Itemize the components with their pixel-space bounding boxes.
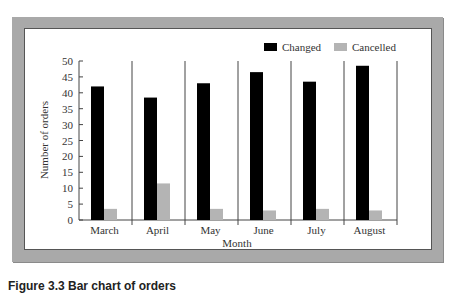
legend-swatch-changed: [264, 43, 277, 51]
legend-label-changed: Changed: [282, 41, 322, 53]
y-tick-label: 15: [62, 166, 74, 178]
y-tick-label: 50: [62, 55, 74, 67]
bar-cancelled-march: [104, 209, 117, 220]
y-tick-label: 10: [62, 182, 74, 194]
bar-cancelled-june: [263, 210, 276, 220]
bar-cancelled-july: [316, 209, 329, 220]
legend: Changed Cancelled: [264, 41, 396, 53]
x-axis-labels: MarchAprilMayJuneJulyAugust: [90, 224, 385, 236]
y-tick-label: 5: [68, 198, 74, 210]
y-axis-title: Number of orders: [38, 101, 50, 179]
bar-changed-june: [250, 72, 263, 220]
x-tick-label: June: [253, 224, 273, 236]
bars: [91, 66, 382, 220]
y-tick-label: 45: [62, 71, 74, 83]
bar-cancelled-may: [210, 209, 223, 220]
x-tick-label: April: [146, 224, 169, 236]
bar-changed-august: [356, 66, 369, 220]
y-tick-label: 35: [62, 103, 74, 115]
x-tick-label: March: [90, 224, 119, 236]
x-tick-label: May: [200, 224, 221, 236]
y-axis: 05101520253035404550: [62, 55, 397, 226]
legend-swatch-cancelled: [334, 43, 347, 51]
x-axis-title: Month: [222, 237, 252, 249]
y-tick-label: 30: [62, 119, 74, 131]
bar-changed-march: [91, 86, 104, 220]
y-tick-label: 20: [62, 150, 74, 162]
y-tick-label: 25: [62, 135, 74, 147]
x-tick-label: July: [307, 224, 326, 236]
x-tick-label: August: [354, 224, 386, 236]
bar-cancelled-august: [369, 210, 382, 220]
y-tick-label: 0: [68, 214, 74, 226]
legend-label-cancelled: Cancelled: [352, 41, 396, 53]
bar-changed-april: [144, 98, 157, 220]
y-tick-label: 40: [62, 87, 74, 99]
bar-changed-may: [197, 83, 210, 220]
bar-changed-july: [303, 82, 316, 220]
bar-cancelled-april: [157, 183, 170, 220]
figure-caption: Figure 3.3 Bar chart of orders: [8, 279, 176, 293]
